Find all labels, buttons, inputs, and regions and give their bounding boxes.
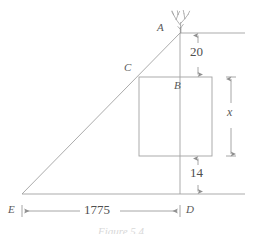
point-label-D: D	[186, 204, 194, 215]
figure-caption: Figure 5.4	[98, 226, 144, 234]
point-label-B: B	[174, 80, 181, 91]
dimension-label-1775: 1775	[84, 203, 110, 216]
triangle-shape	[22, 33, 180, 194]
dimension-label-14: 14	[190, 166, 203, 179]
figure-canvas	[0, 0, 255, 234]
point-label-A: A	[157, 22, 164, 33]
triangle-hypotenuse	[22, 33, 180, 194]
dimension-label-20: 20	[190, 45, 203, 58]
point-label-C: C	[124, 62, 131, 73]
geometry-figure: A B C D E 20 x 14 1775 Figure 5.4	[0, 0, 255, 234]
point-label-E: E	[8, 204, 15, 215]
dimension-label-x: x	[227, 106, 232, 118]
